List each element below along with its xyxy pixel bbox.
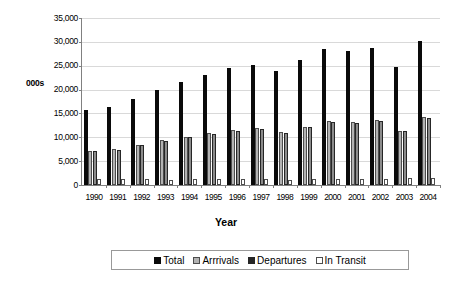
x-tick-label: 2003	[392, 192, 416, 202]
bar-total	[394, 67, 398, 185]
y-tick-label: 10,000	[40, 133, 78, 142]
bar-arrrivals	[160, 140, 164, 185]
bar-arrrivals	[351, 122, 355, 185]
legend-label: Arrrivals	[202, 255, 239, 266]
x-tick-mark	[321, 185, 322, 188]
bar-arrrivals	[184, 137, 188, 185]
chart-legend: TotalArrrivalsDeparturesIn Transit	[111, 250, 409, 270]
bar-in-transit	[264, 179, 268, 185]
bar-departures	[236, 131, 240, 185]
bar-arrrivals	[112, 149, 116, 185]
bar-total	[251, 65, 255, 185]
bar-in-transit	[288, 180, 292, 185]
legend-label: Departures	[257, 255, 306, 266]
x-tick-label: 2004	[416, 192, 440, 202]
bar-in-transit	[431, 178, 435, 185]
bar-group	[297, 18, 321, 185]
bar-total	[274, 71, 278, 185]
x-tick-label: 1996	[225, 192, 249, 202]
legend-swatch-icon	[193, 257, 200, 264]
x-tick-label: 1994	[177, 192, 201, 202]
bar-departures	[164, 141, 168, 185]
bar-group	[154, 18, 178, 185]
bar-total	[370, 48, 374, 185]
bar-group	[106, 18, 130, 185]
bar-in-transit	[241, 179, 245, 185]
bar-total	[155, 90, 159, 185]
legend-item[interactable]: Departures	[248, 255, 306, 266]
bar-arrrivals	[422, 117, 426, 185]
bar-group	[249, 18, 273, 185]
bar-total	[84, 110, 88, 185]
bar-group	[177, 18, 201, 185]
bar-departures	[93, 151, 97, 185]
y-tick-label: 20,000	[40, 85, 78, 94]
plot-area	[82, 18, 440, 185]
bar-departures	[427, 118, 431, 185]
x-tick-mark	[345, 185, 346, 188]
x-tick-label: 2000	[321, 192, 345, 202]
x-tick-mark	[273, 185, 274, 188]
x-tick-label: 1992	[130, 192, 154, 202]
x-tick-mark	[416, 185, 417, 188]
bar-departures	[140, 145, 144, 185]
x-tick-mark	[225, 185, 226, 188]
bar-arrrivals	[303, 127, 307, 185]
bar-departures	[188, 137, 192, 185]
bar-group	[225, 18, 249, 185]
bar-departures	[260, 129, 264, 185]
x-tick-mark	[106, 185, 107, 188]
y-tick-mark	[79, 185, 82, 186]
legend-item[interactable]: Arrrivals	[193, 255, 239, 266]
x-tick-mark	[130, 185, 131, 188]
legend-swatch-icon	[248, 257, 255, 264]
bar-group	[82, 18, 106, 185]
x-tick-label: 2002	[368, 192, 392, 202]
bar-in-transit	[145, 179, 149, 185]
y-tick-label: 25,000	[40, 61, 78, 70]
y-tick-label: 35,000	[40, 14, 78, 23]
x-tick-label: 1991	[106, 192, 130, 202]
y-tick-label: 5,000	[40, 157, 78, 166]
x-tick-label: 1993	[154, 192, 178, 202]
x-tick-mark	[440, 185, 441, 188]
x-tick-mark	[249, 185, 250, 188]
bar-group	[392, 18, 416, 185]
legend-swatch-icon	[154, 257, 161, 264]
y-tick-label: 0	[40, 181, 78, 190]
bar-chart: 000s 35,00030,00025,00020,00015,00010,00…	[0, 0, 452, 281]
legend-label: Total	[163, 255, 184, 266]
bar-departures	[355, 123, 359, 186]
bar-group	[273, 18, 297, 185]
bar-departures	[331, 122, 335, 185]
legend-item[interactable]: Total	[154, 255, 184, 266]
bar-total	[346, 51, 350, 185]
bar-group	[201, 18, 225, 185]
x-tick-label: 1999	[297, 192, 321, 202]
bar-arrrivals	[88, 151, 92, 185]
bar-in-transit	[193, 179, 197, 185]
bar-in-transit	[336, 179, 340, 185]
bar-total	[227, 68, 231, 185]
bar-departures	[117, 150, 121, 185]
x-tick-label: 1995	[201, 192, 225, 202]
x-tick-label: 1998	[273, 192, 297, 202]
legend-item[interactable]: In Transit	[316, 255, 366, 266]
bar-arrrivals	[375, 120, 379, 185]
bar-total	[107, 107, 111, 185]
y-tick-label: 15,000	[40, 109, 78, 118]
legend-swatch-icon	[316, 257, 323, 264]
bar-in-transit	[97, 179, 101, 185]
bar-total	[179, 82, 183, 185]
bar-arrrivals	[279, 132, 283, 185]
x-tick-mark	[392, 185, 393, 188]
x-tick-mark	[154, 185, 155, 188]
bar-total	[322, 49, 326, 185]
bar-departures	[284, 133, 288, 185]
bar-departures	[308, 127, 312, 185]
x-tick-label: 2001	[345, 192, 369, 202]
y-tick-label: 30,000	[40, 37, 78, 46]
bar-group	[368, 18, 392, 185]
bar-arrrivals	[136, 145, 140, 185]
bar-total	[298, 60, 302, 185]
